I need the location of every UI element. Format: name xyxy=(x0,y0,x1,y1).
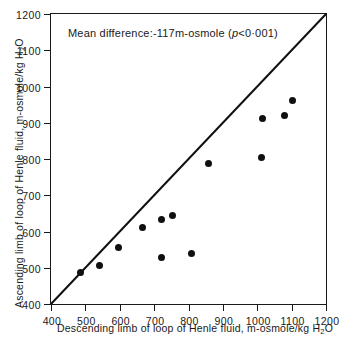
x-tick-500: 500 xyxy=(85,304,86,311)
annotation-suffix: <0·001) xyxy=(238,27,278,39)
y-ticklabel-900: 900 xyxy=(22,118,41,130)
y-tick-600: 600 xyxy=(44,232,51,233)
x-tick-1200: 1200 xyxy=(326,304,327,311)
data-point xyxy=(139,224,146,231)
x-tick-1000: 1000 xyxy=(257,304,258,311)
x-tick-400: 400 xyxy=(51,304,52,311)
y-ticklabel-700: 700 xyxy=(22,190,41,202)
y-axis-label-container: Ascending limb of loop of Henle fluid, m… xyxy=(0,0,18,310)
y-tick-700: 700 xyxy=(44,195,51,196)
y-tick-900: 900 xyxy=(44,123,51,124)
y-tick-500: 500 xyxy=(44,268,51,269)
x-tick-800: 800 xyxy=(189,304,190,311)
mean-difference-annotation: Mean difference:-117m-osmole (p<0·001) xyxy=(68,27,278,39)
x-axis-label: Descending limb of loop of Henle fluid, … xyxy=(50,322,340,336)
data-point xyxy=(281,112,288,119)
x-tick-900: 900 xyxy=(223,304,224,311)
y-tick-800: 800 xyxy=(44,159,51,160)
y-ticklabel-1200: 1200 xyxy=(16,9,41,21)
x-tick-700: 700 xyxy=(154,304,155,311)
y-ticklabel-500: 500 xyxy=(22,263,41,275)
y-tick-400: 400 xyxy=(44,304,51,305)
y-tick-1100: 1100 xyxy=(44,50,51,51)
annotation-prefix: Mean difference:-117m-osmole ( xyxy=(68,27,232,39)
data-point xyxy=(158,216,165,223)
x-tick-600: 600 xyxy=(120,304,121,311)
line-of-identity xyxy=(51,14,326,304)
x-tick-1100: 1100 xyxy=(292,304,293,311)
data-point xyxy=(259,115,266,122)
x-axis-label-text: Descending limb of loop of Henle fluid, … xyxy=(57,322,320,334)
data-point xyxy=(115,244,122,251)
data-point xyxy=(77,269,84,276)
y-tick-1200: 1200 xyxy=(44,14,51,15)
y-ticklabel-400: 400 xyxy=(22,299,41,311)
data-point xyxy=(169,212,176,219)
y-ticklabel-1100: 1100 xyxy=(17,45,41,57)
plot-area: 400 500 600 700 800 900 1000 1100 1200 4… xyxy=(50,13,327,305)
x-axis-label-tail: O xyxy=(325,322,333,334)
y-tick-1000: 1000 xyxy=(44,87,51,88)
y-ticklabel-1000: 1000 xyxy=(16,82,41,94)
y-ticklabel-800: 800 xyxy=(22,154,41,166)
y-ticklabel-600: 600 xyxy=(22,227,41,239)
scatter-plot-figure: Ascending limb of loop of Henle fluid, m… xyxy=(0,0,361,342)
